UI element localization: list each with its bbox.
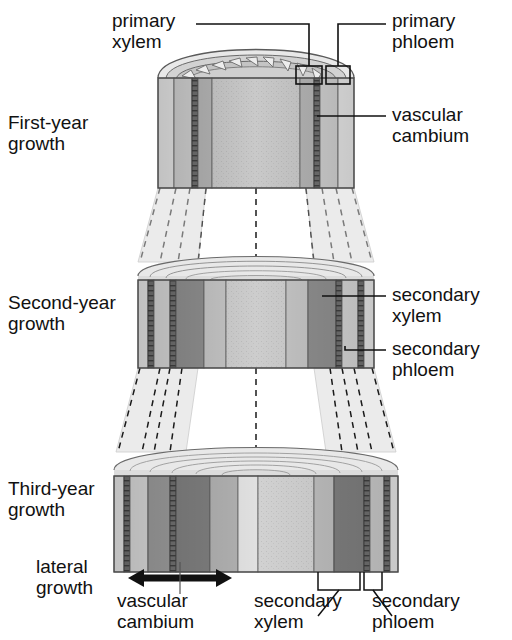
first-year-bands	[158, 78, 354, 188]
label-vascular-cambium: vascular cambium	[392, 104, 469, 147]
second-year-bands	[138, 280, 374, 368]
label-secondary-phloem-bottom: secondary phloem	[372, 590, 460, 633]
label-vascular-cambium-bottom: vascular cambium	[117, 590, 194, 633]
label-secondary-phloem: secondary phloem	[392, 338, 480, 381]
third-year-bands	[114, 476, 398, 572]
stage-label-first-year: First-year growth	[8, 112, 88, 155]
stage-second-year	[138, 257, 374, 369]
label-primary-phloem: primary phloem	[392, 10, 455, 53]
stage-label-third-year: Third-year growth	[8, 478, 95, 521]
label-lateral-growth: lateral growth	[36, 556, 93, 599]
stage-label-second-year: Second-year growth	[8, 292, 116, 335]
stage-first-year	[158, 50, 354, 189]
label-secondary-xylem-bottom: secondary xylem	[254, 590, 342, 633]
label-primary-xylem: primary xylem	[112, 10, 175, 53]
label-secondary-xylem: secondary xylem	[392, 284, 480, 327]
stage-third-year	[114, 448, 398, 573]
